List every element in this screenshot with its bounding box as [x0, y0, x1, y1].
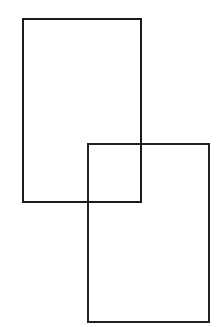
figure-canvas [0, 0, 217, 327]
background-plane [0, 0, 217, 327]
two-overlapping-rectangles-drawing [0, 0, 217, 327]
